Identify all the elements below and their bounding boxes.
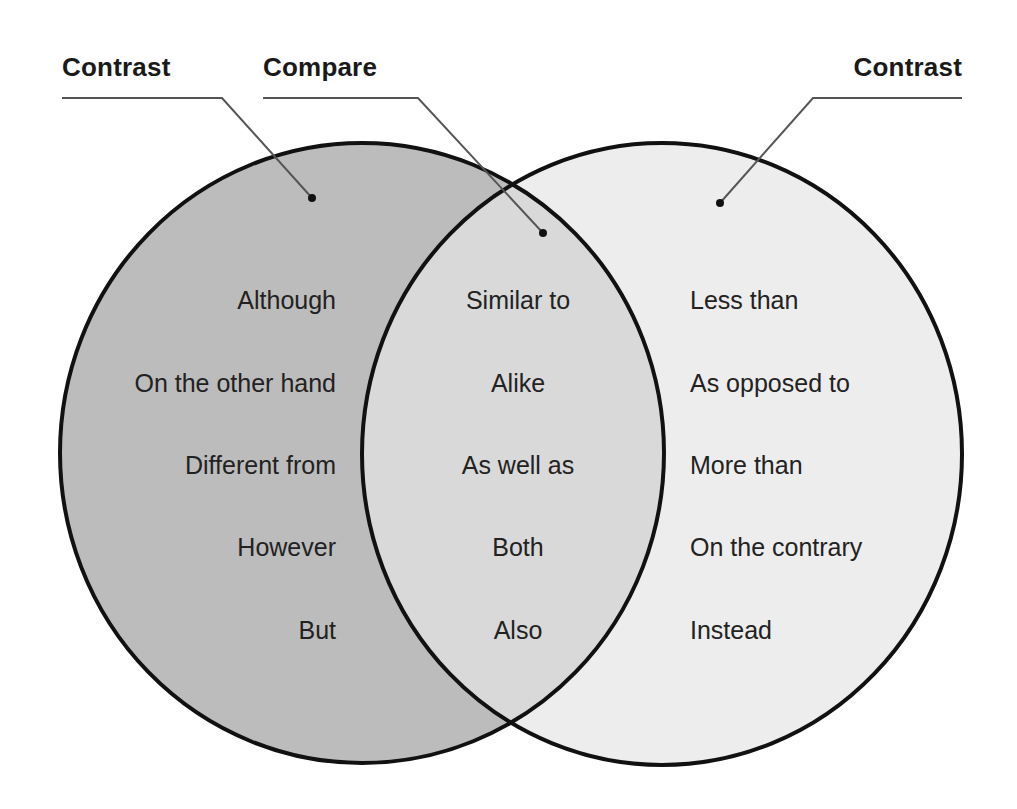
list-item: Different from bbox=[185, 450, 336, 480]
list-item: But bbox=[298, 615, 336, 645]
list-item: On the other hand bbox=[134, 368, 336, 398]
callout-dot-left bbox=[308, 194, 316, 202]
list-item: More than bbox=[690, 450, 803, 480]
venn-diagram bbox=[0, 0, 1017, 809]
list-item: Similar to bbox=[466, 285, 570, 315]
callout-dot-right bbox=[716, 199, 724, 207]
list-item: Alike bbox=[491, 368, 545, 398]
callout-dot-middle bbox=[539, 229, 547, 237]
list-item: On the contrary bbox=[690, 532, 862, 562]
label-right-contrast: Contrast bbox=[854, 52, 963, 83]
list-item: Instead bbox=[690, 615, 772, 645]
list-item: As well as bbox=[462, 450, 575, 480]
list-item: Also bbox=[494, 615, 543, 645]
list-item: However bbox=[237, 532, 336, 562]
list-item: Both bbox=[492, 532, 543, 562]
label-left-contrast: Contrast bbox=[62, 52, 171, 83]
list-item: Less than bbox=[690, 285, 798, 315]
label-compare: Compare bbox=[263, 52, 377, 83]
list-item: Although bbox=[237, 285, 336, 315]
list-item: As opposed to bbox=[690, 368, 850, 398]
